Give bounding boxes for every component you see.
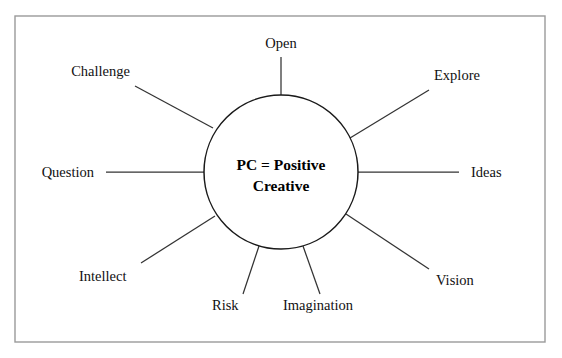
spoke-label-challenge: Challenge: [71, 63, 130, 79]
spoke-line-explore: [350, 90, 429, 138]
hub-label-line-2: Creative: [253, 177, 310, 194]
spoke-label-intellect: Intellect: [79, 268, 127, 284]
diagram-page: PC = Positive Creative OpenExploreIdeasV…: [0, 0, 562, 358]
spoke-label-ideas: Ideas: [471, 164, 502, 180]
spoke-label-open: Open: [265, 35, 297, 51]
spoke-label-risk: Risk: [212, 297, 239, 313]
spoke-label-explore: Explore: [434, 67, 480, 83]
radial-diagram: PC = Positive Creative OpenExploreIdeasV…: [0, 0, 562, 358]
hub-label-line-1: PC = Positive: [237, 156, 326, 173]
spoke-line-imagination: [303, 246, 320, 294]
spoke-line-risk: [243, 246, 259, 294]
spoke-label-vision: Vision: [436, 272, 475, 288]
spoke-line-intellect: [141, 216, 215, 263]
spoke-line-challenge: [135, 86, 213, 128]
spoke-label-imagination: Imagination: [283, 297, 354, 313]
spoke-line-vision: [346, 214, 429, 269]
spoke-label-question: Question: [42, 164, 95, 180]
